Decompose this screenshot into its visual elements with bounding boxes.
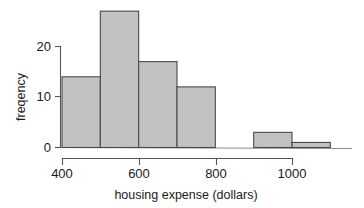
bar-bin-400-500 xyxy=(62,77,100,148)
y-axis-title: freqency xyxy=(14,72,28,121)
bar-bin-500-600 xyxy=(100,11,138,147)
x-tick-label-800: 800 xyxy=(205,166,227,181)
x-tick-label-400: 400 xyxy=(51,166,73,181)
x-tick-label-1000: 1000 xyxy=(278,166,307,181)
histogram-chart: 20 10 0 freqency 400 600 800 1000 housin… xyxy=(0,0,364,208)
bar-bin-700-800 xyxy=(177,87,215,148)
y-tick-label-10: 10 xyxy=(37,89,51,104)
bar-bin-900-1000 xyxy=(254,132,292,147)
bar-bin-600-700 xyxy=(139,62,177,148)
y-tick-label-0: 0 xyxy=(44,140,51,155)
histogram-svg: 20 10 0 freqency 400 600 800 1000 housin… xyxy=(0,0,364,208)
y-tick-label-20: 20 xyxy=(37,39,51,54)
x-tick-label-600: 600 xyxy=(128,166,150,181)
bar-bin-1000-1100 xyxy=(292,142,330,147)
x-axis-title: housing expense (dollars) xyxy=(114,188,257,202)
